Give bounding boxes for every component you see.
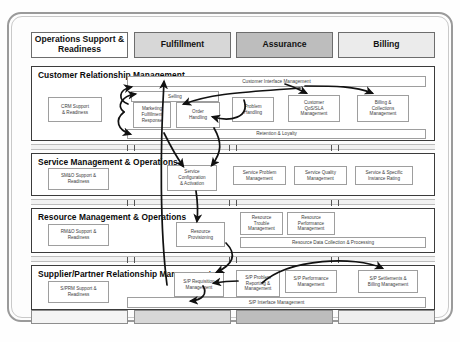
column-band-3 bbox=[31, 256, 435, 262]
box-resource-data-collection-processing[interactable]: Resource Data Collection & Processing bbox=[240, 237, 426, 248]
box-marketing-fulfillment-response[interactable]: Marketing Fulfillment Response bbox=[133, 102, 171, 128]
box-sp-settlements-billing-management[interactable]: S/P Settlements & Billing Management bbox=[358, 270, 418, 293]
column-header-operations-support-readiness[interactable]: Operations Support & Readiness bbox=[31, 32, 128, 58]
box-billing-collections-management[interactable]: Billing & Collections Management bbox=[357, 95, 409, 122]
box-customer-interface-management[interactable]: Customer Interface Management bbox=[127, 76, 426, 87]
diagram-canvas: Operations Support & Readiness Fulfillme… bbox=[0, 0, 460, 342]
box-service-configuration-activation[interactable]: Service Configuration & Activation bbox=[167, 165, 217, 191]
box-sp-requisition-management[interactable]: S/P Requisition Management bbox=[174, 272, 224, 297]
box-retention-loyalty[interactable]: Retention & Loyalty bbox=[127, 129, 426, 139]
box-sp-performance-management[interactable]: S/P Performance Management bbox=[285, 270, 337, 293]
column-footer-assurance bbox=[236, 310, 333, 324]
box-rmo-support-readiness[interactable]: RM&O Support & Readiness bbox=[48, 224, 109, 246]
column-header-assurance[interactable]: Assurance bbox=[236, 32, 333, 58]
box-order-handling[interactable]: Order Handling bbox=[176, 102, 220, 128]
box-service-quality-management[interactable]: Service Quality Management bbox=[294, 166, 347, 185]
column-header-fulfillment[interactable]: Fulfillment bbox=[134, 32, 231, 58]
row-title-smo: Service Management & Operations bbox=[38, 157, 178, 167]
box-resource-trouble-management[interactable]: Resource Trouble Management bbox=[240, 212, 283, 235]
box-smo-support-readiness[interactable]: SM&O Support & Readiness bbox=[48, 168, 109, 190]
box-sprm-support-readiness[interactable]: S/PRM Support & Readiness bbox=[48, 281, 109, 303]
column-footer-fulfillment bbox=[134, 310, 231, 324]
column-footer-operations-support-readiness bbox=[31, 310, 128, 324]
box-service-specific-instance-rating[interactable]: Service & Specific Instance Rating bbox=[355, 166, 413, 185]
box-service-problem-management[interactable]: Service Problem Management bbox=[233, 166, 286, 185]
row-title-rmo: Resource Management & Operations bbox=[38, 212, 186, 222]
box-problem-handling[interactable]: Problem Handling bbox=[232, 97, 274, 122]
box-customer-qos-sla-management[interactable]: Customer QoS/SLA Management bbox=[288, 95, 340, 122]
box-resource-provisioning[interactable]: Resource Provisioning bbox=[176, 222, 225, 247]
column-header-billing[interactable]: Billing bbox=[338, 32, 435, 58]
column-footer-billing bbox=[338, 310, 435, 324]
box-crm-support-readiness[interactable]: CRM Support & Readiness bbox=[48, 97, 102, 122]
column-band-2 bbox=[31, 199, 435, 205]
column-band-1 bbox=[31, 144, 435, 150]
box-sp-interface-management[interactable]: S/P Interface Management bbox=[127, 297, 426, 308]
box-sp-problem-reporting-management[interactable]: S/P Problem Reporting & Management bbox=[236, 270, 280, 297]
box-selling[interactable]: Selling bbox=[131, 91, 219, 102]
box-resource-performance-management[interactable]: Resource Performance Management bbox=[287, 212, 335, 235]
